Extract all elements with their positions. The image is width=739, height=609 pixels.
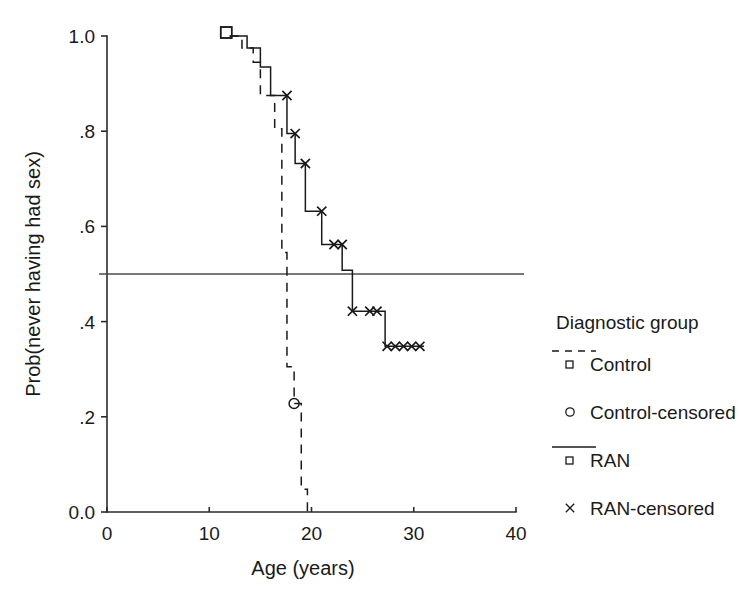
legend: Diagnostic group ControlControl-censored… bbox=[552, 312, 736, 519]
legend-entry-label: RAN-censored bbox=[590, 498, 715, 519]
km-survival-figure: 0.0.2.4.6.81.0 010203040 Age (years) Pro… bbox=[0, 0, 739, 609]
y-tick-label: .8 bbox=[79, 121, 95, 142]
square-marker-icon bbox=[566, 361, 573, 368]
x-tick-label: 20 bbox=[301, 523, 322, 544]
x-tick-label: 0 bbox=[102, 523, 113, 544]
x-tick-label: 30 bbox=[403, 523, 424, 544]
x-tick-label: 40 bbox=[505, 523, 526, 544]
legend-entry-label: Control bbox=[590, 354, 651, 375]
y-tick-label: 0.0 bbox=[69, 502, 95, 523]
legend-entry-control-censored[interactable]: Control-censored bbox=[566, 402, 736, 423]
legend-entry-ran-censored[interactable]: RAN-censored bbox=[566, 498, 715, 519]
series-ran bbox=[221, 27, 425, 351]
legend-title: Diagnostic group bbox=[556, 312, 699, 333]
series-control bbox=[221, 27, 308, 512]
plot-axes: 0.0.2.4.6.81.0 010203040 bbox=[69, 26, 527, 544]
square-marker-icon bbox=[566, 457, 573, 464]
y-tick-label: .4 bbox=[79, 312, 95, 333]
legend-entry-label: Control-censored bbox=[590, 402, 736, 423]
y-tick-label: .2 bbox=[79, 407, 95, 428]
circle-marker-icon bbox=[566, 408, 574, 416]
series-layer bbox=[221, 27, 425, 512]
step-curve-ran bbox=[230, 36, 424, 346]
y-tick-label: .6 bbox=[79, 216, 95, 237]
y-axis-title: Prob(never having had sex) bbox=[22, 151, 44, 397]
legend-entry-control[interactable]: Control bbox=[552, 351, 651, 375]
km-plot-svg: 0.0.2.4.6.81.0 010203040 Age (years) Pro… bbox=[0, 0, 739, 609]
legend-entry-ran[interactable]: RAN bbox=[552, 447, 630, 471]
legend-entry-label: RAN bbox=[590, 450, 630, 471]
legend-entries: ControlControl-censoredRANRAN-censored bbox=[552, 351, 736, 519]
x-axis-title: Age (years) bbox=[251, 557, 354, 579]
x-tick-label: 10 bbox=[199, 523, 220, 544]
y-tick-label: 1.0 bbox=[69, 26, 95, 47]
